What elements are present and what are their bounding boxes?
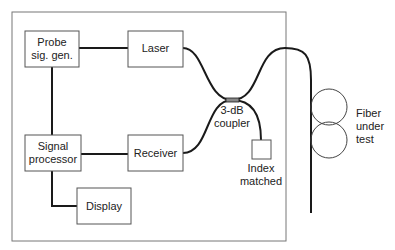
coupler-label: 3-dB coupler <box>212 104 252 130</box>
coupler-junction <box>226 98 239 102</box>
laser-label: Laser <box>128 42 183 55</box>
wire-processor-display <box>52 171 77 206</box>
receiver-label: Receiver <box>128 147 183 160</box>
fiber-coupler-to-output <box>232 48 311 213</box>
index-matched-label: Index matched <box>236 162 286 188</box>
signal-processor-label: Signal processor <box>25 140 81 166</box>
index-matched-termination <box>252 140 271 159</box>
fiber-coil-upper <box>311 89 347 125</box>
fiber-laser-to-coupler <box>183 48 232 100</box>
display-label: Display <box>77 200 131 213</box>
fiber-under-test-label: Fiber under test <box>356 107 395 146</box>
probe-signal-generator-label: Probe sig. gen. <box>25 36 79 62</box>
fiber-coil-lower <box>311 122 347 158</box>
